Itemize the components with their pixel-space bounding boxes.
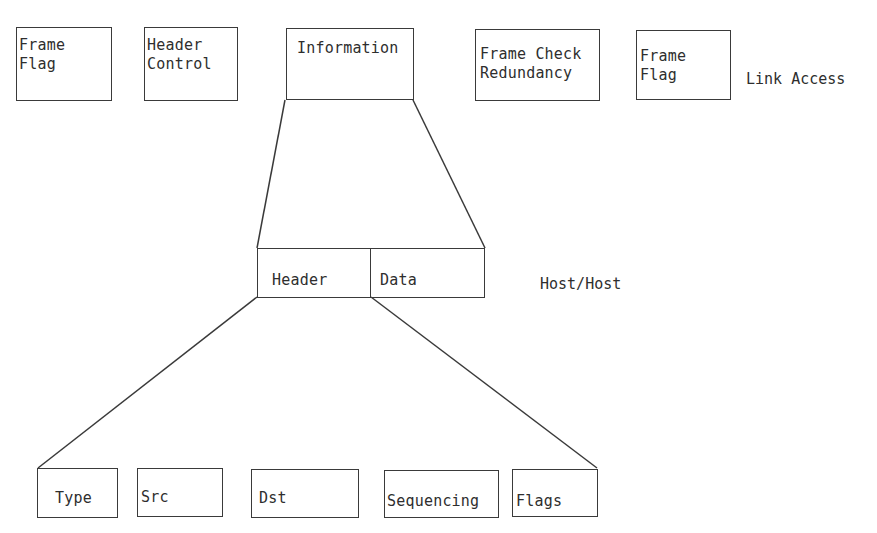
field-label-line1: Header — [147, 36, 202, 55]
field-label-line2: Flag — [19, 55, 56, 74]
field-label-line1: Frame Check — [480, 45, 582, 64]
field-label: Flags — [516, 492, 562, 511]
field-frame-flag-start: Frame Flag — [16, 27, 112, 101]
field-label: Data — [380, 271, 417, 290]
field-label-line2: Flag — [640, 66, 677, 85]
field-dst: Dst — [251, 469, 359, 518]
expansion-line-header-right — [371, 297, 597, 468]
field-label-line1: Information — [297, 39, 399, 58]
level-label-link-access: Link Access — [746, 70, 845, 88]
expansion-line-information-right — [413, 100, 485, 248]
field-type: Type — [37, 468, 118, 518]
field-label-line2: Control — [147, 55, 212, 74]
field-label-line1: Frame — [19, 36, 65, 55]
field-flags: Flags — [512, 469, 598, 517]
field-label-line2: Redundancy — [480, 64, 572, 83]
field-frame-flag-end: Frame Flag — [636, 30, 731, 100]
field-label: Dst — [259, 489, 287, 508]
field-label: Src — [141, 488, 169, 507]
diagram-canvas: Frame Flag Header Control Information Fr… — [0, 0, 877, 533]
field-label: Header — [272, 271, 327, 290]
field-header: Header — [257, 248, 371, 298]
level-label-host-host: Host/Host — [540, 275, 621, 293]
field-information: Information — [286, 28, 414, 100]
field-label-line1: Frame — [640, 47, 686, 66]
field-src: Src — [137, 468, 223, 517]
expansion-line-information-left — [257, 100, 285, 248]
field-frame-check-redundancy: Frame Check Redundancy — [475, 29, 600, 101]
expansion-line-header-left — [38, 297, 257, 468]
field-sequencing: Sequencing — [384, 470, 499, 518]
field-data: Data — [370, 248, 485, 298]
field-label: Sequencing — [387, 492, 479, 511]
field-header-control: Header Control — [144, 27, 238, 101]
field-label: Type — [55, 489, 92, 508]
